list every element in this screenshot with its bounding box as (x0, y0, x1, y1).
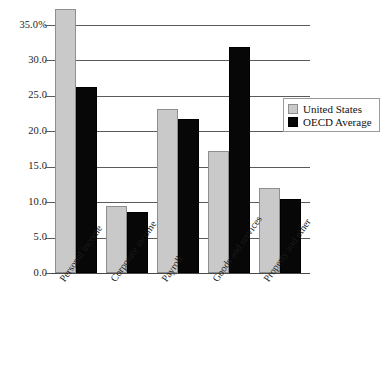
legend-label-united-states: United States (303, 103, 362, 115)
bar-chart: 35.0% 30.0 25.0 20.0 15.0 10.0 5.0 0.0 (0, 0, 383, 366)
bar-oecd-payroll (178, 119, 199, 273)
bar-us-payroll (157, 109, 178, 273)
legend-swatch-icon-united-states (288, 104, 298, 114)
legend-label-oecd-average: OECD Average (303, 116, 372, 128)
legend-swatch-icon-oecd-average (288, 117, 298, 127)
legend-item-oecd-average: OECD Average (288, 115, 375, 128)
legend: United States OECD Average (283, 98, 380, 132)
legend-item-united-states: United States (288, 102, 375, 115)
x-axis-labels: Personal income Corporate income Payroll… (0, 0, 383, 92)
